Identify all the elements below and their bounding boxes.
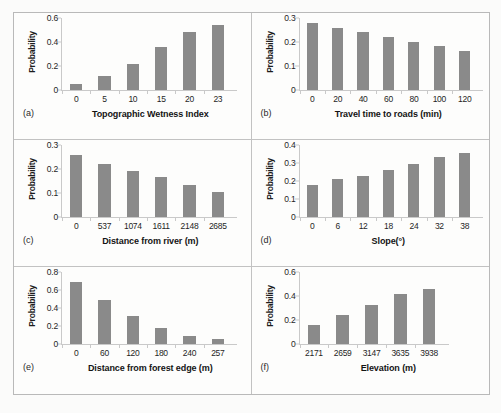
x-tick-label: 24 <box>401 221 426 231</box>
x-tick-labels: 0510152023 <box>62 94 232 104</box>
panel-label: (a) <box>23 108 34 118</box>
bar <box>183 185 195 217</box>
y-tick-label: 0 <box>291 212 296 222</box>
bar <box>459 153 470 217</box>
x-tick-label: 38 <box>452 221 477 231</box>
y-tick-labels: 00.10.20.3 <box>274 18 298 90</box>
x-tick-label: 60 <box>376 94 401 104</box>
bar <box>307 23 318 90</box>
bar <box>183 336 195 344</box>
panel-label: (b) <box>261 108 272 118</box>
x-axis-label: Travel time to roads (min) <box>292 109 486 119</box>
bar-series <box>300 272 444 344</box>
bar <box>70 155 82 217</box>
bar-slot <box>119 145 147 217</box>
plot-area: Probability00.20.40.60510152023Topograph… <box>14 13 251 139</box>
x-tick-label: 5 <box>90 94 118 104</box>
y-tick-label: 0 <box>53 339 58 349</box>
plot-area: Probability00.10.20.30.4061218243238Slop… <box>252 140 490 266</box>
x-axis-line <box>299 344 449 345</box>
x-tick-label: 2171 <box>300 348 329 358</box>
bar <box>155 177 167 217</box>
y-tick-label: 0 <box>53 85 58 95</box>
x-tick-label: 6 <box>325 221 350 231</box>
bar-slot <box>204 18 232 90</box>
x-tick-labels: 060120180240257 <box>62 348 232 358</box>
x-axis-label: Slope(°) <box>292 236 486 246</box>
chart-panel-c: Probability00.10.20.30537107416112148268… <box>14 140 252 267</box>
x-tick-labels: 061218243238 <box>300 221 478 231</box>
bar-slot <box>350 145 375 217</box>
x-tick-labels: 05371074161121482685 <box>62 221 232 231</box>
x-tick-label: 3635 <box>386 348 415 358</box>
panel-label: (c) <box>23 235 34 245</box>
x-tick-labels: 21712659314736353938 <box>300 348 444 358</box>
bar-slot <box>452 145 477 217</box>
x-tick-label: 3147 <box>357 348 386 358</box>
bar-slot <box>147 272 175 344</box>
bar <box>383 37 394 90</box>
plot-area: Probability00.10.20.30537107416112148268… <box>14 140 251 266</box>
y-tick-label: 0.2 <box>284 315 295 325</box>
bar <box>423 289 436 344</box>
bar <box>357 32 368 90</box>
bar <box>357 176 368 217</box>
bar-slot <box>325 18 350 90</box>
bar <box>127 171 139 217</box>
x-tick-label: 0 <box>62 94 90 104</box>
bar <box>308 325 321 344</box>
y-tick-labels: 00.20.40.6 <box>36 18 60 90</box>
x-tick-label: 0 <box>300 94 325 104</box>
bar <box>155 47 167 90</box>
y-tick-label: 0.8 <box>47 267 58 277</box>
bar <box>394 294 407 344</box>
panel-label: (d) <box>261 235 272 245</box>
x-tick-label: 15 <box>147 94 175 104</box>
bar-series <box>62 18 232 90</box>
chart-panel-d: Probability00.10.20.30.4061218243238Slop… <box>252 140 490 267</box>
chart-panel-b: Probability00.10.20.3020406080100120Trav… <box>252 13 490 140</box>
bar-slot <box>357 272 386 344</box>
y-tick-label: 0.3 <box>284 158 295 168</box>
x-axis-line <box>299 217 483 218</box>
y-tick-label: 0.1 <box>284 194 295 204</box>
x-tick-label: 0 <box>300 221 325 231</box>
y-tick-label: 0.4 <box>47 37 58 47</box>
bar-slot <box>147 145 175 217</box>
bar <box>365 305 378 344</box>
y-tick-labels: 00.20.40.60.8 <box>36 272 60 344</box>
bar <box>459 51 470 90</box>
y-tick-label: 0.1 <box>284 61 295 71</box>
x-axis-label: Topographic Wetness Index <box>54 109 247 119</box>
bar <box>332 28 343 90</box>
x-tick-label: 3938 <box>415 348 444 358</box>
y-tick-label: 0.1 <box>47 188 58 198</box>
x-tick-label: 23 <box>204 94 232 104</box>
bar-slot <box>300 145 325 217</box>
figure-container: Probability00.20.40.60510152023Topograph… <box>13 12 490 395</box>
bar-slot <box>119 272 147 344</box>
y-tick-label: 0.2 <box>284 176 295 186</box>
y-tick-label: 0.3 <box>284 13 295 23</box>
y-tick-labels: 00.20.40.6 <box>274 272 298 344</box>
bar <box>70 282 82 344</box>
y-tick-label: 0.4 <box>284 291 295 301</box>
y-tick-label: 0.2 <box>284 37 295 47</box>
x-tick-label: 80 <box>401 94 426 104</box>
x-axis-line <box>299 90 483 91</box>
bar <box>408 42 419 90</box>
bar-slot <box>147 18 175 90</box>
x-tick-label: 180 <box>147 348 175 358</box>
bar-slot <box>386 272 415 344</box>
bar-slot <box>452 18 477 90</box>
panel-label: (e) <box>23 362 34 372</box>
bar <box>155 328 167 344</box>
bar <box>183 32 195 90</box>
x-tick-label: 40 <box>350 94 375 104</box>
bar <box>212 25 224 90</box>
bar <box>127 316 139 344</box>
y-tick-label: 0.2 <box>47 164 58 174</box>
bar-slot <box>175 272 203 344</box>
bar <box>98 300 110 344</box>
y-tick-label: 0.4 <box>284 140 295 150</box>
